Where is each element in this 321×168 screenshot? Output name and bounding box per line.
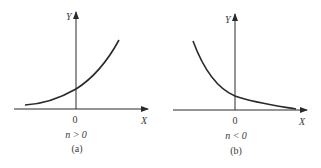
- decay-curve: [193, 41, 296, 109]
- y-axis-label: Y: [66, 11, 73, 22]
- condition-label: n < 0: [225, 130, 247, 141]
- x-axis-label: X: [140, 115, 148, 126]
- panel-a: Y 0 X n > 0 (a): [14, 11, 148, 155]
- origin-label: 0: [73, 114, 78, 125]
- origin-label: 0: [233, 115, 238, 126]
- caption: (a): [71, 143, 82, 155]
- condition-label: n > 0: [65, 129, 87, 140]
- panel-b: Y 0 X n < 0 (b): [173, 14, 307, 157]
- x-axis-label: X: [298, 116, 306, 127]
- caption: (b): [230, 145, 242, 157]
- figure-canvas: Y 0 X n > 0 (a) Y 0 X n < 0 (b): [0, 0, 321, 168]
- y-axis-label: Y: [225, 14, 232, 25]
- growth-curve: [25, 40, 119, 105]
